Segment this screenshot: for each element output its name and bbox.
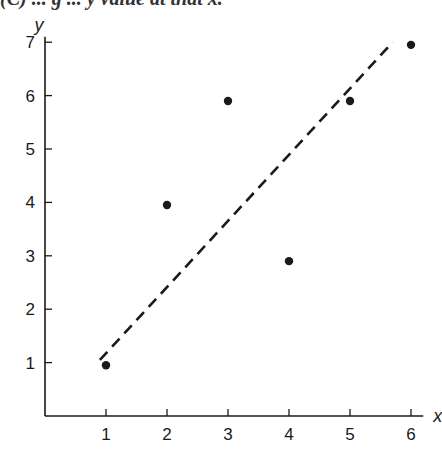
y-tick-label: 4 (26, 193, 35, 212)
y-tick-label: 1 (26, 354, 35, 373)
data-point (102, 361, 110, 369)
x-tick-label: 2 (162, 425, 171, 444)
x-tick-label: 5 (345, 425, 354, 444)
y-tick-label: 2 (26, 300, 35, 319)
y-tick-label: 3 (26, 247, 35, 266)
y-tick-label: 6 (26, 87, 35, 106)
y-axis-label: y (33, 15, 45, 35)
y-tick-label: 7 (26, 33, 35, 52)
y-tick-label: 5 (26, 140, 35, 159)
x-tick-label: 1 (101, 425, 110, 444)
data-point (163, 201, 171, 209)
data-point (285, 257, 293, 265)
x-tick-label: 3 (223, 425, 232, 444)
x-tick-label: 6 (406, 425, 415, 444)
x-axis-label: x (432, 406, 442, 426)
data-point (346, 97, 354, 105)
dashed-trend-line (100, 42, 393, 360)
data-point (224, 97, 232, 105)
data-point (407, 41, 415, 49)
scatter-plot: 1234561234567xy (0, 0, 442, 449)
x-tick-label: 4 (284, 425, 293, 444)
